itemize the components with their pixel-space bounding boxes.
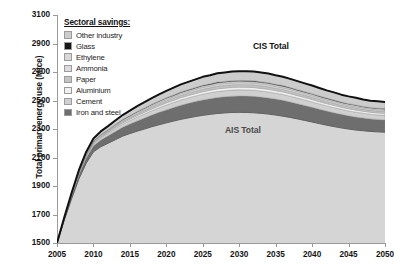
x-tick	[349, 243, 350, 247]
y-tick-label: 2300	[32, 125, 50, 133]
series-label-cis-total: CIS Total	[253, 41, 289, 51]
x-tick	[130, 243, 131, 247]
legend-item-label: Cement	[76, 97, 102, 106]
y-tick-label: 1900	[32, 182, 50, 190]
legend-swatch-icon	[64, 42, 72, 50]
legend: Sectoral savings: Other industryGlassEth…	[63, 17, 151, 118]
series-label-ais-total: AIS Total	[225, 125, 261, 135]
legend-swatch-icon	[64, 87, 72, 95]
x-tick	[93, 243, 94, 247]
legend-item[interactable]: Ammonia	[63, 63, 151, 74]
x-tick	[312, 243, 313, 247]
legend-item-label: Aluminium	[76, 86, 111, 95]
legend-item-label: Glass	[76, 42, 95, 51]
x-tick	[239, 243, 240, 247]
y-tick-label: 3100	[32, 11, 50, 19]
y-tick	[53, 215, 57, 216]
y-tick-label: 2100	[32, 153, 50, 161]
legend-rows: Other industryGlassEthyleneAmmoniaPaperA…	[63, 30, 151, 119]
y-tick	[53, 15, 57, 16]
x-tick-label: 2040	[303, 251, 321, 259]
legend-item[interactable]: Cement	[63, 96, 151, 107]
y-tick-label: 1700	[32, 210, 50, 218]
x-tick-label: 2035	[267, 251, 285, 259]
x-tick-label: 2050	[376, 251, 394, 259]
x-tick-label: 2005	[48, 251, 66, 259]
legend-item[interactable]: Glass	[63, 41, 151, 52]
x-tick	[166, 243, 167, 247]
legend-item-label: Other industry	[76, 31, 122, 40]
legend-title: Sectoral savings:	[64, 17, 151, 27]
legend-swatch-icon	[64, 65, 72, 73]
y-tick-label: 1500	[32, 239, 50, 247]
y-tick-label: 2700	[32, 68, 50, 76]
legend-swatch-icon	[64, 109, 72, 117]
y-tick-label: 2500	[32, 96, 50, 104]
y-tick	[53, 158, 57, 159]
legend-swatch-icon	[64, 31, 72, 39]
x-tick-label: 2025	[194, 251, 212, 259]
x-tick-label: 2020	[157, 251, 175, 259]
legend-item[interactable]: Ethylene	[63, 52, 151, 63]
legend-swatch-icon	[64, 53, 72, 61]
x-tick-label: 2010	[84, 251, 102, 259]
y-tick	[53, 44, 57, 45]
legend-item[interactable]: Aluminium	[63, 85, 151, 96]
legend-item-label: Iron and steel	[76, 108, 120, 117]
y-tick	[53, 101, 57, 102]
x-tick-label: 2030	[230, 251, 248, 259]
legend-swatch-icon	[64, 98, 72, 106]
x-tick	[203, 243, 204, 247]
legend-swatch-icon	[64, 76, 72, 84]
x-tick	[57, 243, 58, 247]
y-tick-label: 2900	[32, 39, 50, 47]
figure-caption	[2, 269, 172, 277]
legend-item[interactable]: Other industry	[63, 30, 151, 41]
legend-item-label: Paper	[76, 75, 96, 84]
x-tick-label: 2045	[339, 251, 357, 259]
y-tick	[53, 72, 57, 73]
x-tick	[385, 243, 386, 247]
legend-item[interactable]: Iron and steel	[63, 107, 151, 118]
x-tick-label: 2015	[121, 251, 139, 259]
x-tick	[276, 243, 277, 247]
legend-item[interactable]: Paper	[63, 74, 151, 85]
y-tick	[53, 186, 57, 187]
legend-item-label: Ammonia	[76, 64, 107, 73]
x-axis-line	[57, 243, 386, 244]
legend-item-label: Ethylene	[76, 53, 105, 62]
y-tick	[53, 129, 57, 130]
